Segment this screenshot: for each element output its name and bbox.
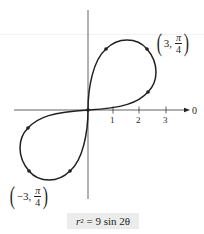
tick-label-1: 1 (110, 115, 115, 125)
equation-rhs: = 9 sin 2θ (84, 215, 130, 227)
lemniscate-lower-loop (20, 110, 88, 180)
point-r: −3 (17, 190, 29, 202)
theta-numerator: π (34, 185, 41, 197)
theta-denominator: 4 (176, 44, 181, 55)
plot-point (104, 47, 108, 51)
plot-point (27, 169, 31, 173)
polar-axis-label: 0 (192, 105, 197, 116)
point-theta: π 4 (175, 32, 182, 55)
lemniscate-upper-loop (88, 40, 156, 110)
tick-label-3: 3 (163, 115, 168, 125)
comma: , (28, 190, 31, 202)
theta-denominator: 4 (35, 197, 40, 208)
axis-arrow-icon (184, 108, 190, 112)
point-theta: π 4 (34, 185, 41, 208)
plot-point (86, 108, 90, 112)
right-paren: ) (184, 30, 189, 56)
plot-point (68, 169, 72, 173)
tick-label-2: 2 (136, 115, 141, 125)
plot-point (146, 90, 150, 94)
point-label-upper: ( 3, π 4 ) (155, 30, 191, 56)
point-label-lower: ( −3, π 4 ) (8, 183, 50, 209)
comma: , (169, 37, 172, 49)
theta-numerator: π (175, 32, 182, 44)
equation-box: r2 = 9 sin 2θ (67, 213, 139, 229)
right-paren: ) (43, 183, 48, 209)
plot-point (26, 126, 30, 130)
plot-point (145, 47, 149, 51)
left-paren: ( (10, 183, 15, 209)
left-paren: ( (157, 30, 162, 56)
